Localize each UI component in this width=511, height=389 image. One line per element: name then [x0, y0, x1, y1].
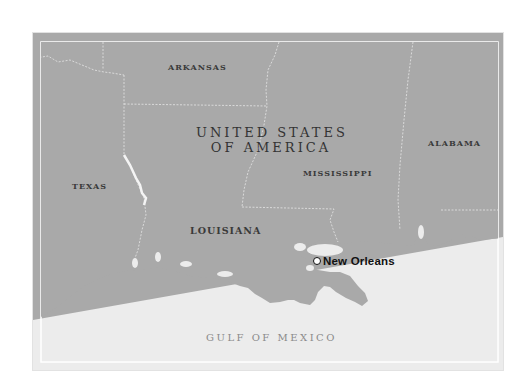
city-marker-new-orleans[interactable]: New Orleans [313, 255, 395, 267]
water-body-name: Gulf of Mexico [206, 332, 337, 343]
country-label-line2: of America [196, 140, 346, 155]
state-label-mississippi: Mississippi [303, 168, 373, 178]
island [155, 252, 161, 262]
city-label: New Orleans [323, 255, 395, 267]
state-label-texas: Texas [72, 181, 107, 191]
island [294, 243, 306, 251]
island [180, 261, 192, 267]
state-name: Alabama [428, 138, 481, 148]
water-label-gulf-of-mexico: Gulf of Mexico [206, 332, 337, 343]
state-name: Arkansas [168, 62, 227, 72]
state-label-arkansas: Arkansas [168, 62, 227, 72]
state-name: Texas [72, 181, 107, 191]
state-label-louisiana: Louisiana [190, 225, 261, 236]
map-canvas [0, 0, 511, 389]
country-label-line1: United States [196, 125, 346, 140]
island [132, 258, 138, 268]
island [217, 271, 233, 277]
state-name: Mississippi [303, 168, 373, 178]
state-label-alabama: Alabama [428, 138, 481, 148]
circle-marker-icon [313, 257, 321, 265]
state-name: Louisiana [190, 225, 261, 236]
country-label: United States of America [196, 125, 346, 155]
island [418, 225, 424, 239]
